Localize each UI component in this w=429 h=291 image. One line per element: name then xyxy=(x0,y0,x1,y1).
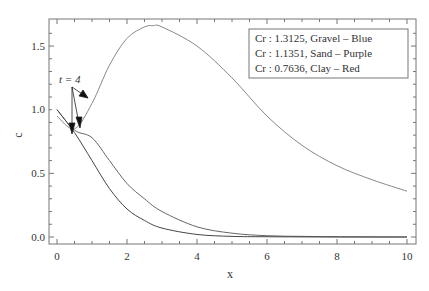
x-tick-label: 8 xyxy=(334,250,340,262)
y-tick-labels: 0.0 0.5 1.0 1.5 xyxy=(31,40,45,243)
legend-entry: Cr : 1.3125, Gravel – Blue xyxy=(255,32,372,44)
y-axis-label: c xyxy=(11,132,25,137)
legend-entry: Cr : 0.7636, Clay – Red xyxy=(255,62,360,74)
x-tick-labels: 0 2 4 6 8 10 xyxy=(54,250,413,262)
y-tick-label: 0.5 xyxy=(31,167,45,179)
legend-entry: Cr : 1.1351, Sand – Purple xyxy=(255,47,372,59)
legend: Cr : 1.3125, Gravel – Blue Cr : 1.1351, … xyxy=(249,29,408,78)
x-tick-label: 4 xyxy=(194,250,200,262)
annotation: t = 4 xyxy=(59,73,88,134)
y-tick-label: 1.0 xyxy=(31,103,45,115)
x-tick-label: 2 xyxy=(124,250,130,262)
x-tick-label: 6 xyxy=(264,250,270,262)
x-tick-label: 0 xyxy=(54,250,60,262)
y-tick-label: 0.0 xyxy=(31,231,45,243)
annotation-text: t = 4 xyxy=(59,73,81,85)
x-tick-label: 10 xyxy=(402,250,414,262)
annotation-arrows xyxy=(69,87,88,134)
y-tick-label: 1.5 xyxy=(31,40,45,52)
x-axis-label: x xyxy=(227,267,233,281)
chart: 0 2 4 6 8 10 0.0 0.5 1.0 1.5 x c Cr : 1.… xyxy=(0,0,429,291)
